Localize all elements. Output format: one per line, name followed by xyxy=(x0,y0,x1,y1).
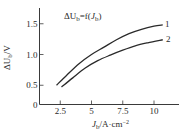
y-ticks: 00.51.01.5 xyxy=(26,19,43,110)
x-ticks: 2.557.510 xyxy=(55,101,159,116)
y-tick-label: 0 xyxy=(33,100,38,110)
y-tick-label: 1.5 xyxy=(26,19,38,29)
chart: 00.51.01.5 2.557.510 1 2 ΔUb=f(Jb) ΔUb/V… xyxy=(0,0,185,139)
y-tick-label: 1.0 xyxy=(26,50,38,60)
series-2-line xyxy=(62,40,163,87)
series-1-label: 1 xyxy=(165,19,170,29)
x-axis-label: Jb/A·cm−2 xyxy=(92,119,129,131)
chart-title: ΔUb=f(Jb) xyxy=(64,11,101,23)
x-tick-label: 5 xyxy=(89,106,94,116)
x-tick-label: 10 xyxy=(150,106,160,116)
x-tick-label: 2.5 xyxy=(55,106,67,116)
series-2-label: 2 xyxy=(166,34,171,44)
y-axis-label: ΔUb/V xyxy=(2,45,14,70)
series-lines xyxy=(57,25,163,87)
y-tick-label: 0.5 xyxy=(26,80,38,90)
x-tick-label: 7.5 xyxy=(117,106,129,116)
